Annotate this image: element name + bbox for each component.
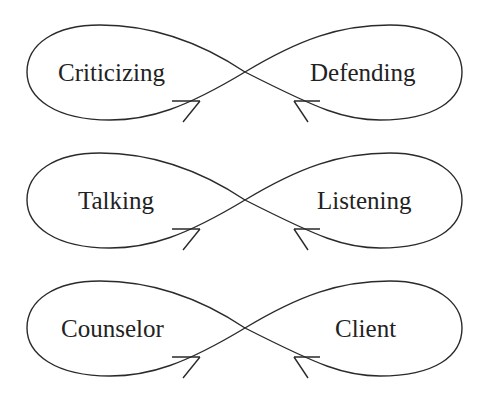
loop-2-left-label: Talking [78, 187, 155, 214]
loop-1: Criticizing Defending [27, 25, 462, 122]
loop-3-left-label: Counselor [61, 315, 164, 342]
loop-1-left-label: Criticizing [58, 59, 165, 86]
loop-3: Counselor Client [27, 281, 462, 378]
loop-2-right-label: Listening [317, 187, 412, 214]
loop-1-right-label: Defending [310, 59, 416, 86]
loop-3-right-label: Client [335, 315, 396, 342]
diagram-canvas: Criticizing Defending Talking Listening … [0, 0, 485, 399]
figure-eight-diagram: Criticizing Defending Talking Listening … [0, 0, 485, 399]
loop-2: Talking Listening [27, 153, 462, 250]
